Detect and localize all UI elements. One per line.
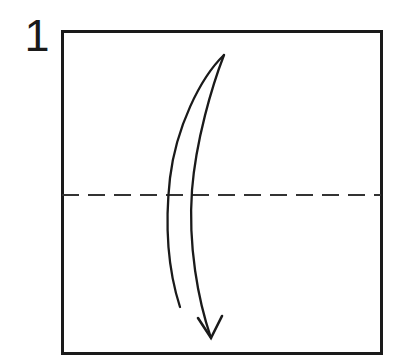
origami-step-figure: 1 (0, 0, 410, 360)
origami-diagram-canvas (0, 0, 410, 360)
paper-square-outline (62, 31, 381, 353)
